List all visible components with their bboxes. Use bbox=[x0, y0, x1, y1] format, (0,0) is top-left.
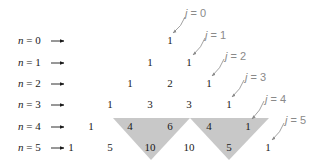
entry-r1-c1: 1 bbox=[186, 56, 192, 68]
shaded-triangle-2 bbox=[190, 118, 269, 160]
entry-r3-c0: 1 bbox=[107, 98, 113, 110]
j-label-3: j = 3 bbox=[232, 71, 266, 97]
j-label-4: j = 4 bbox=[252, 93, 286, 119]
entry-r3-c3: 1 bbox=[226, 98, 232, 110]
arrow-diagonal-icon bbox=[252, 101, 264, 119]
arrow-diagonal-icon bbox=[173, 17, 185, 33]
j-label-0: j = 0 bbox=[173, 7, 206, 33]
j-label-5: j = 5 bbox=[272, 114, 306, 140]
entry-r5-c3: 10 bbox=[184, 141, 196, 153]
svg-text:n = 0: n = 0 bbox=[18, 34, 41, 46]
entry-r0-c0: 1 bbox=[167, 34, 173, 46]
entry-r5-c5: 1 bbox=[265, 141, 271, 153]
svg-text:n = 3: n = 3 bbox=[18, 98, 41, 110]
row-label-5: n = 5 bbox=[18, 141, 64, 153]
entry-r5-c4: 5 bbox=[226, 141, 232, 153]
row-label-1: n = 1 bbox=[18, 56, 64, 68]
svg-text:j = 0: j = 0 bbox=[183, 7, 206, 19]
row-label-3: n = 3 bbox=[18, 98, 64, 110]
entry-r5-c1: 5 bbox=[107, 141, 113, 153]
arrow-diagonal-icon bbox=[193, 38, 205, 55]
entry-r4-c3: 4 bbox=[206, 120, 212, 132]
svg-text:j = 5: j = 5 bbox=[283, 114, 306, 126]
entry-r4-c1: 4 bbox=[127, 120, 133, 132]
entry-r5-c0: 1 bbox=[68, 141, 74, 153]
entry-r3-c2: 3 bbox=[186, 98, 192, 110]
shaded-triangle-1 bbox=[113, 118, 190, 160]
pascal-triangle-diagram: n = 0 n = 1 n = 2 n = 3 n = 4 n = 5 1 1 … bbox=[0, 0, 327, 162]
svg-text:n = 2: n = 2 bbox=[18, 77, 41, 89]
entry-r4-c0: 1 bbox=[88, 120, 94, 132]
row-labels: n = 0 n = 1 n = 2 n = 3 n = 4 n = 5 bbox=[18, 34, 64, 153]
row-label-0: n = 0 bbox=[18, 34, 64, 46]
svg-text:j = 2: j = 2 bbox=[223, 50, 246, 62]
entry-r3-c1: 3 bbox=[147, 98, 153, 110]
svg-text:j = 4: j = 4 bbox=[263, 93, 286, 105]
arrow-diagonal-icon bbox=[212, 59, 224, 76]
entry-r1-c0: 1 bbox=[147, 56, 153, 68]
row-label-4: n = 4 bbox=[18, 120, 64, 132]
j-label-1: j = 1 bbox=[193, 29, 226, 55]
svg-text:j = 3: j = 3 bbox=[243, 71, 266, 83]
arrow-diagonal-icon bbox=[232, 80, 244, 97]
j-label-2: j = 2 bbox=[212, 50, 246, 76]
entry-r5-c2: 10 bbox=[145, 141, 157, 153]
entry-r2-c2: 1 bbox=[206, 77, 212, 89]
row-label-2: n = 2 bbox=[18, 77, 64, 89]
entry-r2-c0: 1 bbox=[127, 77, 133, 89]
entry-r2-c1: 2 bbox=[167, 77, 173, 89]
svg-text:j = 1: j = 1 bbox=[203, 29, 226, 41]
svg-text:n = 1: n = 1 bbox=[18, 56, 41, 68]
svg-text:n = 4: n = 4 bbox=[18, 120, 41, 132]
arrow-diagonal-icon bbox=[272, 123, 284, 140]
svg-text:n = 5: n = 5 bbox=[18, 141, 41, 153]
entry-r4-c2: 6 bbox=[167, 120, 173, 132]
entry-r4-c4: 1 bbox=[245, 120, 251, 132]
